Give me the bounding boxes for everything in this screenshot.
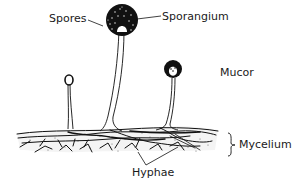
- sporangiophores: [68, 30, 178, 131]
- sporangium-label: Sporangium: [162, 11, 229, 22]
- spores-label: Spores: [49, 13, 86, 24]
- mycelium-label: Mycelium: [239, 139, 292, 150]
- sporangium-pointer: [137, 16, 161, 19]
- mycelium-brace: [228, 133, 235, 156]
- sporangium-small: [65, 75, 73, 85]
- spores-pointer: [88, 20, 103, 26]
- hyphae-label: Hyphae: [132, 167, 174, 178]
- sporangium-medium: [164, 60, 182, 78]
- organism-label: Mucor: [220, 67, 254, 78]
- mucor-diagram: [0, 0, 301, 189]
- sporangium-large: [106, 4, 138, 36]
